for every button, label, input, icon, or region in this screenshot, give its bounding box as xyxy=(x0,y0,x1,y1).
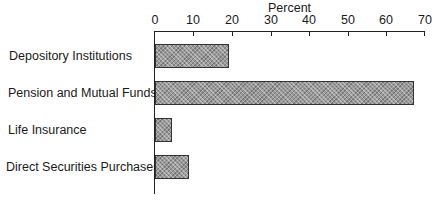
tick-mark xyxy=(271,31,272,36)
tick-label-0: 0 xyxy=(152,13,159,27)
tick-label-10: 10 xyxy=(186,13,200,27)
category-label: Life Insurance xyxy=(8,123,87,137)
tick-mark xyxy=(232,31,233,36)
bar-pension-and-mutual-funds xyxy=(155,81,414,105)
bar-life-insurance xyxy=(155,118,172,142)
x-axis-line xyxy=(154,31,425,32)
tick-label-50: 50 xyxy=(341,13,355,27)
tick-mark xyxy=(193,31,194,36)
bar-depository-institutions xyxy=(155,44,229,68)
tick-label-30: 30 xyxy=(264,13,278,27)
category-label: Direct Securities Purchases xyxy=(6,160,160,174)
category-label: Pension and Mutual Funds xyxy=(8,86,157,100)
tick-mark xyxy=(348,31,349,36)
tick-label-60: 60 xyxy=(379,13,393,27)
tick-label-20: 20 xyxy=(225,13,239,27)
category-label: Depository Institutions xyxy=(9,49,132,63)
tick-mark xyxy=(424,31,425,36)
tick-mark xyxy=(386,31,387,36)
tick-mark xyxy=(309,31,310,36)
bar-direct-securities-purchases xyxy=(155,155,189,179)
tick-label-40: 40 xyxy=(302,13,316,27)
tick-label-70: 70 xyxy=(418,13,432,27)
